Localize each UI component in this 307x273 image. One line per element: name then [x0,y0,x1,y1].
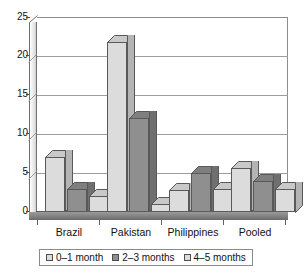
bar-top-face [89,189,109,196]
bar-chart-figure: 25 20 15 10 5 0 [0,0,307,273]
x-tick-label-brazil: Brazil [38,226,100,239]
legend-item-4-5-months: 4–5 months [184,252,246,263]
bar-top-face [231,161,251,168]
x-tick-label-philippines: Philippines [162,226,224,239]
bar-front-face [191,173,211,212]
x-tick-mark [285,220,286,225]
x-axis: Brazil Pakistan Philippines Pooled [30,226,295,242]
bar-front-face [275,189,295,212]
bar-side-face [295,182,302,205]
bar-top-face [253,174,273,181]
x-tick-mark [37,220,38,225]
legend-swatch-icon [112,254,119,261]
bar-top-face [275,182,295,189]
bar-top-face [45,150,65,157]
bar-front-face [213,189,233,212]
bar-front-face [169,190,189,212]
legend-item-0-1-month: 0–1 month [46,252,103,263]
bar-front-face [107,42,127,212]
bar-top-face [213,182,233,189]
bar-pooled-0-1-month [231,168,251,212]
bar-brazil-0-1-month [45,157,65,212]
legend-swatch-icon [46,254,53,261]
bar-philippines-2-3-months [191,173,211,212]
axis-floor [29,212,288,220]
x-tick-mark [161,220,162,225]
bar-front-face [89,196,109,212]
bar-front-face [231,168,251,212]
bar-top-face [191,166,211,173]
x-tick-mark [99,220,100,225]
bar-top-face [129,111,149,118]
legend-label: 4–5 months [194,252,246,263]
bar-front-face [67,189,87,212]
legend-item-2-3-months: 2–3 months [112,252,174,263]
bar-pooled-4-5-months [275,189,295,212]
bars-layer [37,17,288,212]
legend-label: 2–3 months [122,252,174,263]
legend-swatch-icon [184,254,191,261]
bar-pakistan-2-3-months [129,118,149,212]
bar-front-face [45,157,65,212]
bar-top-face [151,197,171,204]
bar-brazil-2-3-months [67,189,87,212]
bar-front-face [253,181,273,212]
bar-philippines-4-5-months [213,189,233,212]
x-tick-label-pooled: Pooled [224,226,286,239]
bar-top-face [67,182,87,189]
bar-pooled-2-3-months [253,181,273,212]
x-tick-label-pakistan: Pakistan [100,226,162,239]
bar-pakistan-0-1-month [107,42,127,212]
bar-philippines-0-1-month [169,190,189,212]
bar-brazil-4-5-months [89,196,109,212]
bar-side-face [149,111,156,205]
chart-legend: 0–1 month 2–3 months 4–5 months [39,249,253,266]
bar-front-face [129,118,149,212]
bar-top-face [169,183,189,190]
x-tick-mark [223,220,224,225]
bar-top-face [107,35,127,42]
legend-label: 0–1 month [56,252,103,263]
